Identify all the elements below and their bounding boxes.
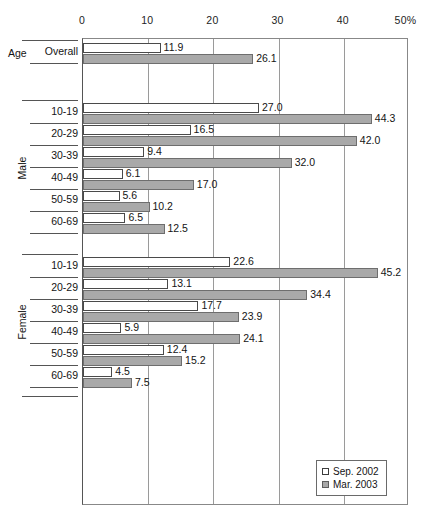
category-separator — [30, 167, 78, 168]
category-label-40-49: 40-49 — [30, 326, 78, 337]
category-separator — [30, 145, 78, 146]
chart-legend: Sep. 2002 Mar. 2003 — [316, 460, 387, 496]
bar-value-label-sep-2002: 17.7 — [201, 300, 221, 311]
bar-value-label-mar-2003: 24.1 — [243, 333, 263, 344]
bar-value-label-sep-2002: 5.6 — [123, 190, 138, 201]
category-label-20-29: 20-29 — [30, 128, 78, 139]
bar-mar-2003 — [83, 378, 132, 388]
bar-sep-2002 — [83, 191, 120, 201]
x-axis-tick-10: 10 — [141, 14, 153, 26]
bar-value-label-mar-2003: 17.0 — [197, 179, 217, 190]
category-separator — [30, 63, 78, 64]
category-separator — [30, 365, 78, 366]
bar-value-label-sep-2002: 11.9 — [164, 42, 184, 53]
category-label-20-29: 20-29 — [30, 282, 78, 293]
bar-sep-2002 — [83, 345, 164, 355]
bar-mar-2003 — [83, 290, 307, 300]
bar-chart: 01020304050% Overall10-1920-2930-3940-49… — [0, 0, 431, 522]
bar-mar-2003 — [83, 114, 372, 124]
category-separator — [30, 123, 78, 124]
category-label-50-59: 50-59 — [30, 194, 78, 205]
bar-group-row: 5.924.1 — [83, 323, 407, 345]
bar-group-row: 4.57.5 — [83, 367, 407, 389]
group-label-age: Age — [8, 47, 27, 59]
bar-mar-2003 — [83, 312, 239, 322]
bar-sep-2002 — [83, 147, 144, 157]
bar-mar-2003 — [83, 158, 292, 168]
group-separator-bottom — [22, 396, 78, 397]
bar-mar-2003 — [83, 268, 378, 278]
legend-swatch-mar-2003-icon — [322, 481, 329, 488]
bar-value-label-mar-2003: 7.5 — [135, 377, 150, 388]
category-label-30-39: 30-39 — [30, 150, 78, 161]
bar-value-label-sep-2002: 9.4 — [147, 146, 162, 157]
x-axis-tick-50: 50% — [395, 14, 417, 26]
bar-value-label-sep-2002: 6.1 — [126, 168, 141, 179]
bar-value-label-sep-2002: 5.9 — [124, 322, 139, 333]
bar-mar-2003 — [83, 54, 253, 64]
group-separator-top — [22, 100, 78, 101]
bar-sep-2002 — [83, 323, 121, 333]
bar-sep-2002 — [83, 279, 168, 289]
category-separator — [30, 277, 78, 278]
bar-mar-2003 — [83, 180, 194, 190]
group-label-male: Male — [16, 146, 28, 190]
bar-sep-2002 — [83, 213, 125, 223]
bar-value-label-mar-2003: 15.2 — [185, 355, 205, 366]
bar-value-label-sep-2002: 27.0 — [262, 102, 282, 113]
bar-value-label-mar-2003: 10.2 — [153, 201, 173, 212]
bar-sep-2002 — [83, 103, 259, 113]
category-label-10-19: 10-19 — [30, 260, 78, 271]
plot-area: 11.926.127.044.316.542.09.432.06.117.05.… — [82, 38, 408, 505]
bar-value-label-sep-2002: 4.5 — [115, 366, 130, 377]
legend-item-sep-2002: Sep. 2002 — [322, 465, 379, 478]
category-separator — [30, 343, 78, 344]
category-separator — [30, 233, 78, 234]
category-separator — [30, 189, 78, 190]
group-label-female: Female — [16, 300, 28, 344]
category-label-40-49: 40-49 — [30, 172, 78, 183]
category-label-60-69: 60-69 — [30, 216, 78, 227]
category-separator — [30, 321, 78, 322]
category-separator — [30, 299, 78, 300]
bar-value-label-mar-2003: 34.4 — [310, 289, 330, 300]
bar-group-row: 27.044.3 — [83, 103, 407, 125]
bar-sep-2002 — [83, 43, 161, 53]
bar-sep-2002 — [83, 125, 191, 135]
category-label-10-19: 10-19 — [30, 106, 78, 117]
bar-group-row: 6.117.0 — [83, 169, 407, 191]
bar-group-row: 5.610.2 — [83, 191, 407, 213]
bar-group-row: 11.926.1 — [83, 43, 407, 65]
bar-mar-2003 — [83, 224, 165, 234]
bar-value-label-sep-2002: 13.1 — [171, 278, 191, 289]
category-separator — [30, 387, 78, 388]
bar-group-row: 22.645.2 — [83, 257, 407, 279]
bar-mar-2003 — [83, 356, 182, 366]
bar-group-row: 16.542.0 — [83, 125, 407, 147]
bar-group-row: 12.415.2 — [83, 345, 407, 367]
x-axis-tick-20: 20 — [206, 14, 218, 26]
bar-value-label-mar-2003: 32.0 — [295, 157, 315, 168]
bar-group-row: 17.723.9 — [83, 301, 407, 323]
bar-mar-2003 — [83, 136, 357, 146]
category-label-30-39: 30-39 — [30, 304, 78, 315]
legend-swatch-sep-2002-icon — [322, 468, 329, 475]
bar-group-row: 13.134.4 — [83, 279, 407, 301]
legend-label-sep-2002: Sep. 2002 — [333, 465, 379, 478]
legend-item-mar-2003: Mar. 2003 — [322, 478, 379, 491]
group-separator-top — [22, 40, 78, 41]
category-label-60-69: 60-69 — [30, 370, 78, 381]
bar-group-row: 9.432.0 — [83, 147, 407, 169]
category-label-overall: Overall — [30, 46, 78, 57]
bar-value-label-mar-2003: 23.9 — [242, 311, 262, 322]
bar-value-label-sep-2002: 22.6 — [233, 256, 253, 267]
bar-value-label-mar-2003: 45.2 — [381, 267, 401, 278]
category-separator — [30, 211, 78, 212]
bar-value-label-mar-2003: 26.1 — [256, 53, 276, 64]
bar-sep-2002 — [83, 367, 112, 377]
bar-value-label-mar-2003: 44.3 — [375, 113, 395, 124]
bar-sep-2002 — [83, 301, 198, 311]
legend-label-mar-2003: Mar. 2003 — [333, 478, 377, 491]
x-axis-tick-0: 0 — [79, 14, 85, 26]
group-separator-top — [22, 254, 78, 255]
